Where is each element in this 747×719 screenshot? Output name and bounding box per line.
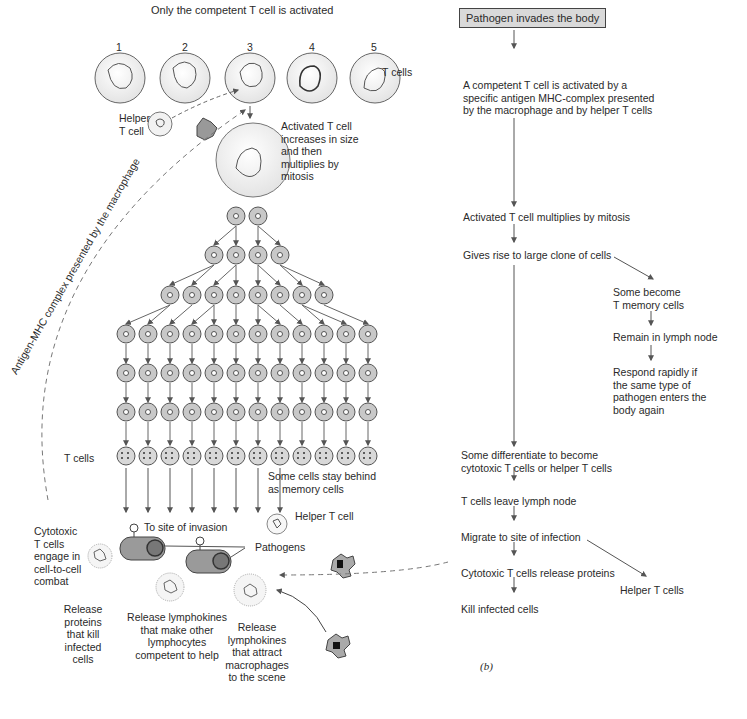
memory-remain: Remain in lymph node [613,331,717,344]
helper-branch: Helper T cells [620,584,684,597]
cell-number-4: 4 [309,41,315,54]
step-activated: A competent T cell is activated by a spe… [463,79,654,117]
cell-number-1: 1 [116,41,122,54]
step-differentiate: Some differentiate to become cytotoxic T… [461,449,612,474]
step-leave: T cells leave lymph node [461,495,576,508]
cell-number-2: 2 [182,41,188,54]
cell-number-3: 3 [247,41,253,54]
t-cells-label: T cells [382,66,412,79]
step-migrate: Migrate to site of infection [461,531,581,544]
helper-label-1: Helper [119,112,150,125]
cytotoxic-text: Cytotoxic T cells engage in cell-to-cell… [34,525,81,588]
cell-number-5: 5 [371,41,377,54]
helper-label-2: T cell [119,125,144,138]
helper-t-cell-label: Helper T cell [295,510,354,523]
start-box: Pathogen invades the body [459,8,606,28]
release-proteins-text: Release proteins that kill infected cell… [58,603,108,666]
clone-cells [117,207,377,465]
top-t-cells [95,53,400,103]
release-lymphokines-macro-text: Release lymphokines that attract macroph… [225,621,289,684]
memory-become: Some become T memory cells [613,286,684,311]
bottom-row-label: T cells [64,452,94,465]
panel-label: (b) [480,660,493,673]
step-release: Cytotoxic T cells release proteins [461,567,615,580]
left-title: Only the competent T cell is activated [151,4,333,17]
to-site-label: To site of invasion [144,521,227,534]
memory-respond: Respond rapidly if the same type of path… [613,366,706,416]
step-kill: Kill infected cells [461,603,539,616]
activated-text: Activated T cell increases in size and t… [281,120,359,183]
release-lymphokines-help-text: Release lymphokines that make other lymp… [125,611,229,661]
memory-text: Some cells stay behind as memory cells [268,470,376,495]
step-clone: Gives rise to large clone of cells [463,249,611,262]
pathogens-label: Pathogens [255,541,305,554]
step-multiplies: Activated T cell multiplies by mitosis [463,211,630,224]
